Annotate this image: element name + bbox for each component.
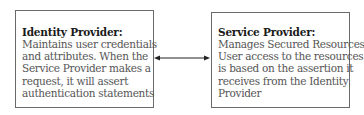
bidirectional-arrow: [0, 0, 364, 115]
arrowhead-right-icon: [204, 56, 210, 61]
arrowhead-left-icon: [154, 56, 160, 61]
